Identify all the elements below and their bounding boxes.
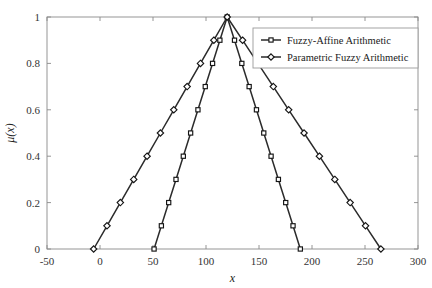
data-point-marker-square <box>240 61 244 65</box>
data-point-marker-diamond <box>197 60 203 66</box>
x-tick-label: 0 <box>97 255 103 267</box>
legend: Fuzzy-Affine ArithmeticParametric Fuzzy … <box>253 28 418 68</box>
y-tick-label: 1 <box>35 11 41 23</box>
data-point-marker-square <box>298 247 302 251</box>
data-point-marker-square <box>159 224 163 228</box>
chart-figure: -5005010015020025030000.20.40.60.81 Fuzz… <box>0 0 432 288</box>
data-point-marker-square <box>196 108 200 112</box>
data-point-marker-square <box>174 177 178 181</box>
x-tick-label: 50 <box>148 255 160 267</box>
legend-label-0: Fuzzy-Affine Arithmetic <box>287 35 391 46</box>
data-point-marker-square <box>247 85 251 89</box>
data-point-marker-diamond <box>144 153 150 159</box>
x-tick-label: 250 <box>357 255 374 267</box>
data-point-marker-diamond <box>117 199 123 205</box>
data-point-marker-square <box>189 131 193 135</box>
data-point-marker-diamond <box>104 223 110 229</box>
data-point-marker-square <box>269 154 273 158</box>
data-point-marker-square <box>269 38 273 42</box>
y-tick-label: 0 <box>35 243 41 255</box>
data-point-marker-diamond <box>131 176 137 182</box>
data-point-marker-diamond <box>211 37 217 43</box>
legend-label-1: Parametric Fuzzy Arithmetic <box>287 52 409 63</box>
data-point-marker-diamond <box>184 83 190 89</box>
membership-function-plot: -5005010015020025030000.20.40.60.81 Fuzz… <box>0 0 432 288</box>
x-tick-label: -50 <box>40 255 55 267</box>
y-tick-label: 0.4 <box>26 150 40 162</box>
x-tick-label: 300 <box>410 255 427 267</box>
data-point-marker-diamond <box>90 246 96 252</box>
data-point-marker-square <box>152 247 156 251</box>
data-point-marker-diamond <box>171 107 177 113</box>
x-axis-title: x <box>229 271 236 285</box>
data-point-marker-square <box>276 177 280 181</box>
data-point-marker-square <box>262 131 266 135</box>
data-point-marker-square <box>254 108 258 112</box>
y-tick-label: 0.2 <box>26 197 40 209</box>
data-point-marker-square <box>291 224 295 228</box>
x-tick-label: 100 <box>198 255 215 267</box>
data-point-marker-square <box>218 38 222 42</box>
data-point-marker-square <box>284 201 288 205</box>
x-tick-label: 150 <box>251 255 268 267</box>
data-point-marker-square <box>167 201 171 205</box>
x-tick-label: 200 <box>304 255 321 267</box>
data-point-marker-square <box>181 154 185 158</box>
data-point-marker-square <box>210 61 214 65</box>
y-tick-label: 0.8 <box>26 57 40 69</box>
data-point-marker-square <box>203 85 207 89</box>
data-point-marker-diamond <box>157 130 163 136</box>
data-point-marker-square <box>232 38 236 42</box>
y-tick-label: 0.6 <box>26 104 40 116</box>
y-axis-title: μ(x) <box>3 123 17 143</box>
